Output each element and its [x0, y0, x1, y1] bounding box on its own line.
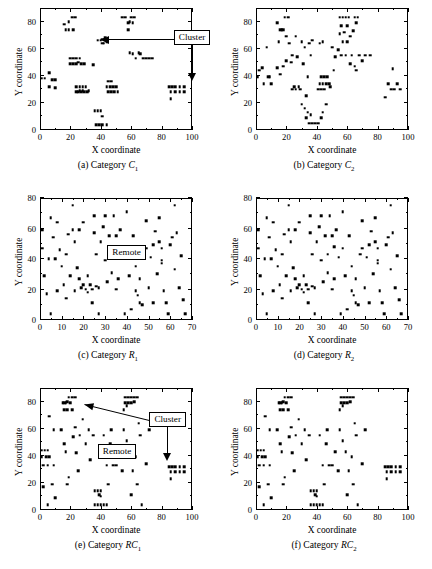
y-tick-d	[404, 228, 408, 229]
y-tick-minor-a	[40, 115, 42, 116]
y-tick-minor-f	[406, 468, 408, 469]
x-tick-minor-d	[289, 318, 290, 320]
data-point	[268, 464, 271, 467]
data-point	[331, 464, 334, 467]
y-tick-label-e: 0	[32, 506, 36, 515]
y-tick-minor-d	[406, 212, 408, 213]
data-point	[110, 271, 113, 274]
data-point	[257, 247, 260, 250]
x-tick-minor-d	[310, 198, 311, 200]
data-point	[261, 66, 264, 69]
x-tick-label-c: 60	[166, 323, 175, 332]
data-point	[134, 57, 137, 60]
data-point	[311, 253, 314, 256]
x-tick-f	[378, 388, 379, 392]
data-point	[265, 46, 268, 49]
x-tick-minor-c	[159, 318, 160, 320]
data-point	[306, 76, 309, 79]
data-point	[71, 204, 74, 207]
y-tick-c	[40, 289, 44, 290]
data-point	[78, 277, 81, 280]
y-tick-c	[188, 228, 192, 229]
data-point	[100, 110, 103, 113]
data-point	[317, 122, 320, 125]
panel-caption-e: (e) Category RC1	[0, 539, 216, 552]
x-tick-label-e: 100	[186, 513, 199, 522]
data-point	[300, 41, 303, 44]
data-point	[126, 210, 129, 213]
data-point	[313, 312, 316, 315]
y-tick-b	[404, 102, 408, 103]
x-tick-f	[347, 388, 348, 392]
data-point	[309, 232, 312, 235]
y-tick-minor-a	[40, 61, 42, 62]
x-tick-a	[162, 126, 163, 130]
data-point	[65, 297, 68, 300]
x-tick-label-c: 10	[57, 323, 66, 332]
y-tick-label-f: 60	[243, 424, 252, 433]
y-tick-a	[188, 129, 192, 130]
data-point	[289, 290, 292, 293]
x-tick-d	[321, 316, 322, 320]
y-tick-minor-f	[406, 414, 408, 415]
x-tick-minor-a	[116, 128, 117, 130]
data-point	[305, 459, 308, 462]
data-point	[106, 123, 109, 126]
y-tick-minor-f	[406, 495, 408, 496]
data-point	[78, 229, 81, 232]
data-point	[68, 20, 71, 23]
x-tick-minor-f	[393, 388, 394, 390]
x-tick-minor-c	[73, 198, 74, 200]
data-point	[124, 16, 127, 19]
x-tick-minor-c	[51, 318, 52, 320]
data-point	[48, 72, 51, 75]
y-tick-label-a: 80	[27, 17, 36, 26]
x-tick-c	[192, 316, 193, 320]
x-tick-c	[62, 316, 63, 320]
y-tick-label-c: 0	[32, 316, 36, 325]
data-point	[361, 463, 364, 466]
x-tick-minor-f	[362, 508, 363, 510]
x-tick-minor-d	[354, 198, 355, 200]
x-tick-label-b: 40	[313, 133, 322, 142]
data-point	[300, 442, 303, 445]
y-tick-label-b: 0	[248, 126, 252, 135]
data-point	[270, 257, 273, 260]
y-tick-minor-d	[256, 243, 258, 244]
x-tick-c	[170, 316, 171, 320]
data-point	[294, 434, 297, 437]
data-point	[179, 91, 182, 94]
panel-a: Cluster020406080100020406080X coordinate…	[0, 0, 216, 190]
x-tick-a	[101, 8, 102, 12]
data-point	[256, 456, 259, 459]
data-point	[393, 88, 396, 91]
y-tick-minor-c	[190, 304, 192, 305]
data-point	[276, 265, 279, 268]
data-point	[86, 274, 89, 277]
x-tick-minor-f	[332, 388, 333, 390]
data-point	[71, 229, 74, 232]
x-tick-label-c: 40	[123, 323, 132, 332]
y-tick-minor-b	[406, 61, 408, 62]
x-tick-minor-a	[55, 128, 56, 130]
y-tick-d	[256, 319, 260, 320]
data-point	[73, 241, 76, 244]
y-tick-a	[40, 129, 44, 130]
data-point	[294, 277, 297, 280]
data-point	[396, 254, 399, 257]
data-point	[334, 450, 337, 453]
data-point	[307, 288, 310, 291]
data-point	[72, 28, 75, 31]
data-point	[276, 66, 279, 69]
data-point	[392, 68, 395, 71]
y-tick-minor-b	[406, 34, 408, 35]
x-tick-d	[343, 316, 344, 320]
data-point	[262, 83, 265, 86]
x-tick-d	[386, 198, 387, 202]
y-tick-label-c: 60	[27, 224, 36, 233]
y-tick-minor-d	[406, 273, 408, 274]
y-tick-minor-b	[256, 88, 258, 89]
data-point	[335, 229, 338, 232]
data-point	[323, 483, 326, 486]
x-tick-label-f: 20	[282, 513, 291, 522]
